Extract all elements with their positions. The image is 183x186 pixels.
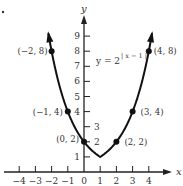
curve-arrow-right-icon xyxy=(147,31,154,42)
point-label: (−2, 8) xyxy=(18,46,48,56)
y-tick-label: 9 xyxy=(74,31,80,41)
data-point: (−1, 4) xyxy=(33,107,71,117)
point-marker xyxy=(81,139,87,145)
x-tick-label: 1 xyxy=(97,176,103,186)
bullet-dot xyxy=(2,11,4,13)
point-marker xyxy=(49,48,55,54)
equation-base: y = 2 xyxy=(95,56,120,66)
point-marker xyxy=(65,109,71,115)
x-tick-label: −2 xyxy=(45,176,58,186)
point-label: (−1, 4) xyxy=(33,107,63,117)
x-tick-label: −4 xyxy=(13,176,27,186)
point-label: (4, 8) xyxy=(154,46,177,56)
axes: x y −4−3−2−101234 123456789 xyxy=(4,3,182,186)
y-tick-label: 8 xyxy=(74,46,80,56)
x-tick-label: 2 xyxy=(114,176,120,186)
function-graph: x y −4−3−2−101234 123456789 y = 2 | x − … xyxy=(0,0,183,186)
curve-arrow-left-icon xyxy=(46,31,53,42)
y-tick-label: 2 xyxy=(94,137,100,147)
y-tick-label: 5 xyxy=(74,92,80,102)
y-tick-label: 7 xyxy=(74,61,80,71)
point-label: (0, 2) xyxy=(56,134,79,144)
equation-label: y = 2 | x − 1 | xyxy=(95,52,147,66)
point-label: (3, 4) xyxy=(141,107,164,117)
point-marker xyxy=(146,48,152,54)
data-point: (−2, 8) xyxy=(18,46,55,56)
x-ticks: −4−3−2−101234 xyxy=(13,166,152,186)
point-marker xyxy=(113,139,119,145)
y-tick-label: 3 xyxy=(94,122,100,132)
point-marker xyxy=(130,109,136,115)
data-point: (0, 2) xyxy=(56,134,87,145)
y-axis-label: y xyxy=(80,3,87,14)
y-axis-arrow-icon xyxy=(81,15,87,24)
equation-exponent: | x − 1 | xyxy=(121,52,147,60)
x-tick-label: 3 xyxy=(130,176,136,186)
point-label: (2, 2) xyxy=(124,137,147,147)
x-tick-label: 0 xyxy=(81,176,87,186)
y-tick-label: 1 xyxy=(74,152,80,162)
x-tick-label: −1 xyxy=(61,176,74,186)
y-tick-label: 6 xyxy=(74,76,80,86)
y-tick-label: 4 xyxy=(74,107,80,117)
x-axis-label: x xyxy=(176,166,182,177)
x-tick-label: −3 xyxy=(29,176,43,186)
x-axis-arrow-icon xyxy=(163,169,172,175)
x-tick-label: 4 xyxy=(146,176,152,186)
